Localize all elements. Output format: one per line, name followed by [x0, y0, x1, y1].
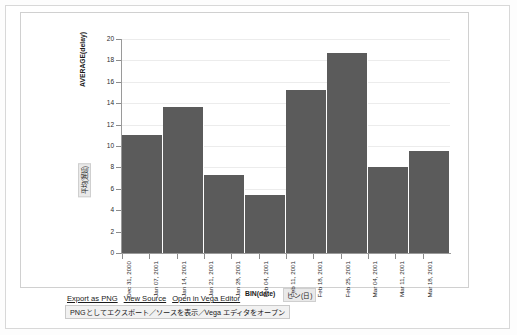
bar[interactable]	[368, 167, 409, 253]
x-axis-title-translation: ビン(日)	[283, 288, 316, 302]
y-axis-label: 10	[84, 142, 114, 149]
x-axis-tick	[313, 254, 314, 259]
y-axis-label-wrap: 16	[81, 78, 114, 86]
y-axis-label: 0	[84, 249, 114, 256]
y-axis-tick	[116, 253, 121, 254]
x-axis-tick	[149, 254, 150, 259]
bar[interactable]	[204, 175, 245, 253]
y-axis-tick	[116, 82, 121, 83]
x-axis-label: Dec 31, 2000	[125, 261, 132, 298]
y-axis-label-wrap: 20	[81, 35, 114, 43]
x-axis-tick	[368, 254, 369, 259]
y-axis-label-wrap: 0	[81, 249, 114, 257]
x-axis-label: Mar 11, 2001	[398, 261, 405, 297]
y-axis-label-wrap: 18	[81, 56, 114, 64]
y-axis-label-wrap: 12	[81, 121, 114, 129]
y-axis-label: 12	[84, 121, 114, 128]
y-axis-label-wrap: 8	[81, 163, 114, 171]
gridline	[122, 60, 450, 61]
y-axis-label: 14	[84, 99, 114, 106]
x-axis-label: Feb 25, 2001	[344, 261, 351, 297]
x-axis-label: Jan 28, 2001	[234, 261, 241, 297]
x-axis-tick	[204, 254, 205, 259]
y-axis-label: 4	[84, 206, 114, 213]
y-axis-tick	[116, 232, 121, 233]
bar[interactable]	[286, 90, 327, 253]
gridline	[122, 39, 450, 40]
y-axis-label: 6	[84, 185, 114, 192]
x-axis-label: Jan 21, 2001	[207, 261, 214, 297]
y-axis-tick	[116, 167, 121, 168]
y-axis-tick	[116, 146, 121, 147]
x-axis-tick	[286, 254, 287, 259]
view-source-link[interactable]: View Source	[124, 294, 167, 303]
x-axis-tick	[395, 254, 396, 259]
x-axis-label: Feb 11, 2001	[289, 261, 296, 297]
x-axis-label: Feb 18, 2001	[316, 261, 323, 297]
y-axis-label-wrap: 2	[81, 228, 114, 236]
y-axis-label-wrap: 6	[81, 185, 114, 193]
x-axis-tick	[341, 254, 342, 259]
y-axis-label-wrap: 4	[81, 206, 114, 214]
bar[interactable]	[245, 195, 286, 253]
x-axis-tick	[177, 254, 178, 259]
x-axis-label: Jan 14, 2001	[180, 261, 187, 297]
x-axis-label: Feb 04, 2001	[262, 261, 269, 297]
page-root: AVERAGE(delay) 平均(遅延) BIN(date) ビン(日) 02…	[0, 0, 517, 335]
x-axis-label: Mar 04, 2001	[371, 261, 378, 297]
y-axis-label: 20	[84, 35, 114, 42]
x-axis-tick	[423, 254, 424, 259]
y-axis-label: 16	[84, 78, 114, 85]
y-axis-label-wrap: 10	[81, 142, 114, 150]
y-axis-label-wrap: 14	[81, 99, 114, 107]
y-axis-tick	[116, 210, 121, 211]
footer-translation: PNGとしてエクスポート／ソースを表示／Vega エディタをオープン	[65, 305, 290, 319]
y-axis-line	[121, 39, 122, 254]
plot-area	[122, 39, 450, 253]
x-axis-label: Jan 07, 2001	[152, 261, 159, 297]
bar[interactable]	[327, 53, 368, 253]
bar[interactable]	[163, 107, 204, 253]
bar[interactable]	[122, 135, 163, 253]
y-axis-label: 2	[84, 228, 114, 235]
y-axis-tick	[116, 39, 121, 40]
x-axis-label: Mar 18, 2001	[426, 261, 433, 297]
x-axis-tick	[122, 254, 123, 259]
export-as-png-link[interactable]: Export as PNG	[67, 294, 118, 303]
y-axis-label: 18	[84, 56, 114, 63]
x-axis-title: BIN(date)	[245, 290, 275, 297]
x-axis-tick	[231, 254, 232, 259]
x-axis-tick	[259, 254, 260, 259]
open-in-vega-editor-link[interactable]: Open in Vega Editor	[172, 294, 240, 303]
y-axis-label: 8	[84, 163, 114, 170]
y-axis-tick	[116, 125, 121, 126]
footer-links: Export as PNGView SourceOpen in Vega Edi…	[67, 294, 246, 303]
chart-card: AVERAGE(delay) 平均(遅延) BIN(date) ビン(日) 02…	[20, 12, 469, 288]
y-axis-tick	[116, 103, 121, 104]
y-axis-tick	[116, 60, 121, 61]
y-axis-tick	[116, 189, 121, 190]
bar[interactable]	[409, 151, 450, 253]
